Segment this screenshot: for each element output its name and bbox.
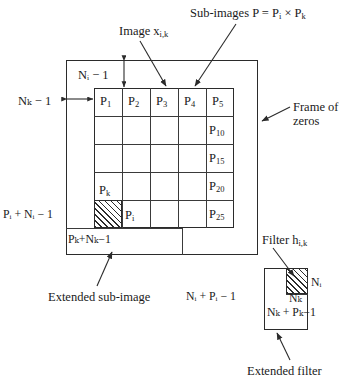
subimages-label-mid: × P xyxy=(281,6,301,20)
image-label-subscript: i,k xyxy=(160,29,169,39)
dimension-pi-plus-ni-minus-1: Pᵢ + Nᵢ − 1 xyxy=(3,208,53,221)
frame-of-zeros-label-line1: Frame of xyxy=(293,100,338,114)
extended-subimage-hline xyxy=(66,228,183,229)
subimages-label-text: Sub-images P = P xyxy=(190,6,279,20)
image-label: Image xi,k xyxy=(119,24,168,40)
grid-hline-3 xyxy=(94,172,234,173)
image-label-text: Image x xyxy=(119,24,160,38)
grid-cell-p1: P1 xyxy=(100,94,111,110)
dimension-ni-minus-1: Nᵢ − 1 xyxy=(78,68,109,82)
grid-cell-p3: P3 xyxy=(156,94,167,110)
grid-cell-p2-text: P xyxy=(128,94,135,108)
extended-subimage-caption: Extended sub-image xyxy=(48,290,150,304)
grid-cell-p15: P15 xyxy=(209,151,224,167)
grid-marker-pi-text: P xyxy=(125,208,132,222)
grid-marker-pi-sub: i xyxy=(132,213,134,223)
grid-marker-pk: Pk xyxy=(99,183,110,199)
grid-marker-pk-sub: k xyxy=(106,188,110,198)
frame-of-zeros-label-line2: zeros xyxy=(293,114,319,128)
grid-cell-p10-text: P xyxy=(209,123,216,137)
extended-filter-caption: Extended filter xyxy=(247,364,322,378)
grid-vline-3 xyxy=(178,88,179,228)
grid-cell-p4: P4 xyxy=(184,94,195,110)
grid-cell-p1-sub: 1 xyxy=(107,99,111,109)
grid-hline-2 xyxy=(94,144,234,145)
diagram-canvas: Image xi,k Sub-images P = Pi × Pk P1 P2 … xyxy=(0,0,350,383)
dimension-ni-plus-pi-minus-1: Nᵢ + Pᵢ − 1 xyxy=(186,290,236,303)
grid-cell-p5-sub: 5 xyxy=(219,99,223,109)
grid-cell-p5-text: P xyxy=(212,94,219,108)
dimension-pk-plus-nk-minus-1: Pₖ+Nₖ−1 xyxy=(68,233,111,246)
dimension-nk-plus-pk-minus-1: Nₖ + Pₖ−1 xyxy=(267,306,316,319)
grid-cell-p15-text: P xyxy=(209,151,216,165)
dimension-nk-filter: Nₖ xyxy=(289,292,302,305)
grid-cell-p20: P20 xyxy=(209,179,224,195)
grid-marker-pk-text: P xyxy=(99,183,106,197)
grid-cell-p1-text: P xyxy=(100,94,107,108)
extended-subimage-hatched-cell xyxy=(94,200,122,228)
grid-hline-1 xyxy=(94,116,234,117)
grid-cell-p5: P5 xyxy=(212,94,223,110)
grid-vline-1 xyxy=(122,88,123,228)
extended-subimage-vline xyxy=(182,228,183,255)
dimension-nk-minus-1: Nₖ − 1 xyxy=(18,94,51,108)
grid-marker-pi: Pi xyxy=(125,208,134,224)
grid-cell-p4-text: P xyxy=(184,94,191,108)
grid-cell-p3-sub: 3 xyxy=(163,99,167,109)
filter-label-sub: i,k xyxy=(298,238,307,248)
grid-cell-p3-text: P xyxy=(156,94,163,108)
grid-cell-p10: P10 xyxy=(209,123,224,139)
grid-cell-p25: P25 xyxy=(209,207,224,223)
grid-vline-2 xyxy=(150,88,151,228)
grid-cell-p2: P2 xyxy=(128,94,139,110)
grid-cell-p4-sub: 4 xyxy=(191,99,195,109)
grid-vline-4 xyxy=(206,88,207,228)
grid-cell-p25-text: P xyxy=(209,207,216,221)
grid-cell-p25-sub: 25 xyxy=(216,212,225,222)
grid-cell-p10-sub: 10 xyxy=(216,128,225,138)
subimages-label: Sub-images P = Pi × Pk xyxy=(190,6,306,22)
grid-cell-p20-sub: 20 xyxy=(216,184,225,194)
filter-label-text: Filter h xyxy=(262,233,298,247)
grid-cell-p15-sub: 15 xyxy=(216,156,225,166)
subimages-sub-k: k xyxy=(302,11,306,21)
leader-frame-of-zeros xyxy=(262,107,290,121)
leader-extended-subimage xyxy=(97,252,112,286)
grid-cell-p2-sub: 2 xyxy=(135,99,139,109)
leader-extended-filter xyxy=(277,333,290,360)
filter-label: Filter hi,k xyxy=(262,233,307,249)
dimension-ni-filter: Nᵢ xyxy=(311,276,321,289)
grid-cell-p20-text: P xyxy=(209,179,216,193)
